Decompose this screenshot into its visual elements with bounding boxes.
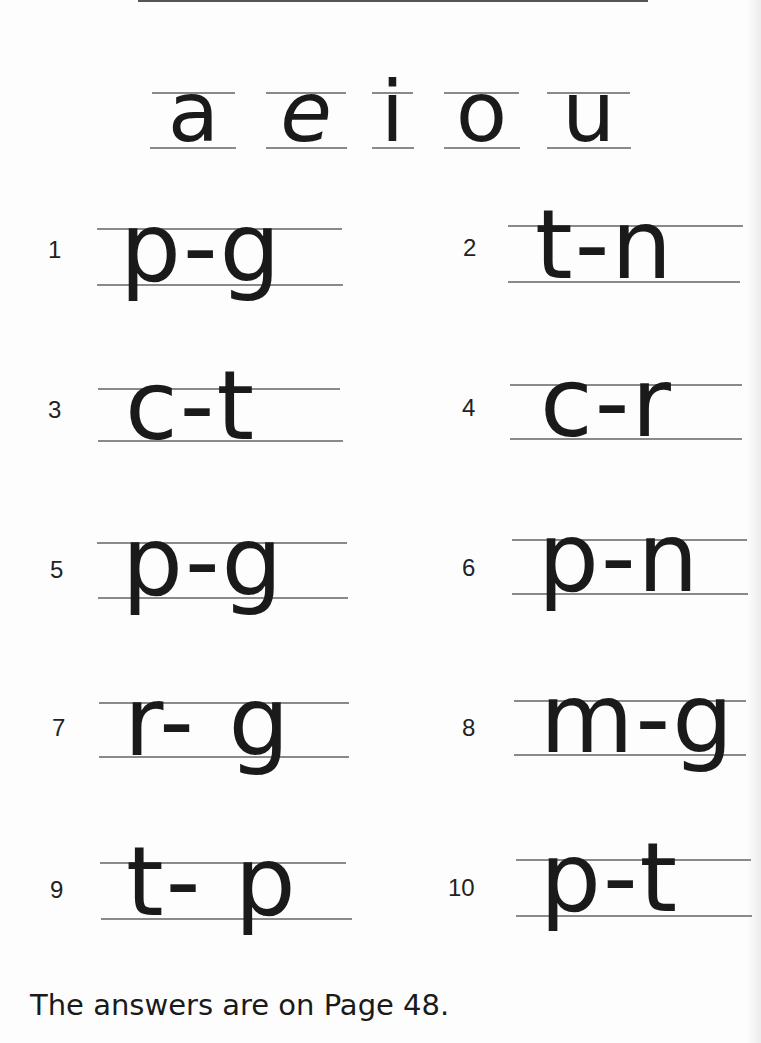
vowel-u: u xyxy=(547,70,630,160)
exercise-number: 10 xyxy=(448,876,475,900)
vowel-i: i xyxy=(372,70,413,160)
vowel-a: a xyxy=(152,70,235,160)
exercise-number: 8 xyxy=(462,716,475,740)
exercise-number: 1 xyxy=(48,238,61,262)
vowel-o: o xyxy=(444,70,519,160)
exercise-word: t-n xyxy=(535,197,674,293)
exercise-word: r- g xyxy=(124,674,291,770)
exercise-number: 4 xyxy=(462,396,475,420)
answers-note: The answers are on Page 48. xyxy=(30,988,449,1022)
exercise-word: p-g xyxy=(122,514,285,610)
exercise-number: 7 xyxy=(52,716,65,740)
exercise-word: p-t xyxy=(540,830,679,926)
exercise-number: 5 xyxy=(50,558,63,582)
exercise-word: c-r xyxy=(540,355,673,451)
exercise-word: c-t xyxy=(125,358,256,454)
exercise-number: 3 xyxy=(48,398,61,422)
exercise-word: t- p xyxy=(126,834,298,930)
exercise-word: p-n xyxy=(538,510,700,606)
exercise-word: m-g xyxy=(540,671,735,767)
exercise-word: p-g xyxy=(120,200,283,296)
exercise-number: 9 xyxy=(50,878,63,902)
vowel-e: e xyxy=(266,70,346,160)
page-edge-shadow xyxy=(747,0,761,1043)
exercise-number: 6 xyxy=(462,556,475,580)
top-rule xyxy=(138,0,648,2)
exercise-number: 2 xyxy=(463,236,476,260)
